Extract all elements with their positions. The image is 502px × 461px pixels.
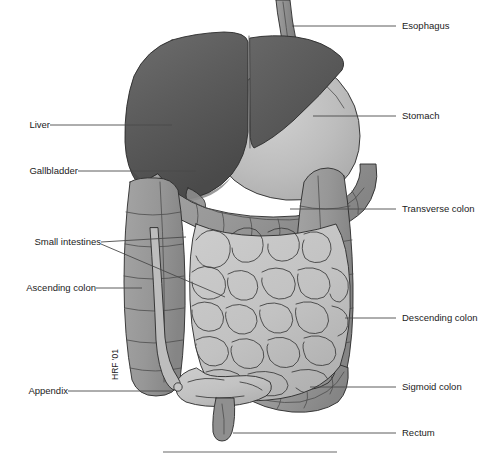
label-ascending-colon: Ascending colon [26,282,96,293]
label-esophagus: Esophagus [402,20,450,31]
label-sigmoid-colon: Sigmoid colon [402,381,462,392]
labels-left: Liver Gallbladder Small intestines Ascen… [26,119,101,396]
label-appendix: Appendix [28,385,68,396]
organ-small-intestines [176,224,351,407]
label-small-intestines: Small intestines [34,236,101,247]
label-descending-colon: Descending colon [402,312,478,323]
digestive-system-figure: Liver Gallbladder Small intestines Ascen… [0,0,502,461]
label-stomach: Stomach [402,110,440,121]
appendix-tip [174,383,182,391]
artist-signature: HRF '01 [110,349,120,380]
label-rectum: Rectum [402,427,435,438]
label-transverse-colon: Transverse colon [402,203,475,214]
anatomy-illustration: Liver Gallbladder Small intestines Ascen… [0,0,502,461]
organ-rectum [213,398,235,441]
labels-right: Esophagus Stomach Transverse colon Desce… [402,20,478,438]
label-gallbladder: Gallbladder [29,165,78,176]
label-liver: Liver [29,119,50,130]
